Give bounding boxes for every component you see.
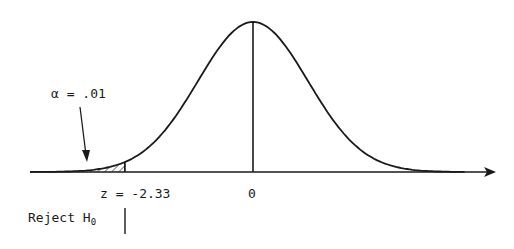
reject-label: Reject H0 — [28, 210, 96, 227]
critical-value-label: z = -2.33 — [100, 186, 170, 201]
reject-label-subscript: 0 — [91, 217, 96, 227]
reject-label-text: Reject H — [28, 210, 91, 225]
alpha-label: α = .01 — [51, 86, 106, 101]
alpha-pointer-arrowhead — [82, 150, 90, 162]
mean-label: 0 — [248, 186, 256, 201]
alpha-pointer-line — [80, 107, 86, 155]
normal-curve-figure: α = .01 z = -2.33 0 Reject H0 — [0, 0, 514, 249]
